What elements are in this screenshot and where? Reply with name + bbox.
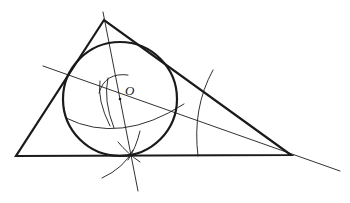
- center-point: [119, 98, 122, 101]
- perpendicular-line: [103, 12, 138, 191]
- construction-arc-o-1: [99, 75, 128, 93]
- construction-arc-c: [197, 70, 213, 156]
- incircle-construction-diagram: O: [0, 0, 350, 203]
- triangle: [16, 20, 291, 156]
- center-label: O: [125, 83, 135, 98]
